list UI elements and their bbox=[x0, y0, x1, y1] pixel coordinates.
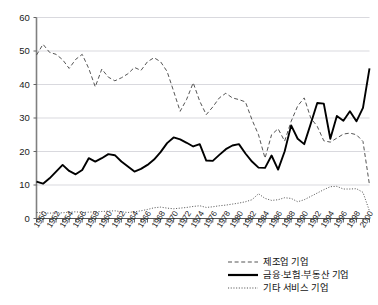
y-tick-label: 30 bbox=[10, 113, 30, 123]
legend-item-1: 제조업 기업 bbox=[228, 256, 376, 268]
legend-line-icon bbox=[228, 270, 258, 280]
series-line-2 bbox=[37, 68, 370, 183]
chart-legend: 제조업 기업금융·보험·부동산 기업기타 서비스 기업 bbox=[228, 256, 376, 295]
y-tick-label: 60 bbox=[10, 13, 30, 23]
chart-container: 0102030405060 19501952195419561958196019… bbox=[0, 0, 378, 305]
y-tick-label: 20 bbox=[10, 147, 30, 157]
legend-item-label: 금융·보험·부동산 기업 bbox=[263, 270, 349, 280]
y-tick-label: 40 bbox=[10, 80, 30, 90]
gridlines bbox=[37, 18, 370, 186]
legend-line-icon bbox=[228, 283, 258, 293]
legend-item-3: 기타 서비스 기업 bbox=[228, 282, 376, 294]
y-tick-label: 10 bbox=[10, 180, 30, 190]
data-series-layer bbox=[37, 44, 370, 213]
series-line-3 bbox=[37, 186, 370, 213]
y-tick-label: 0 bbox=[10, 214, 30, 224]
legend-line-icon bbox=[228, 257, 258, 267]
y-tick-label: 50 bbox=[10, 46, 30, 56]
legend-item-label: 제조업 기업 bbox=[263, 257, 309, 267]
legend-item-label: 기타 서비스 기업 bbox=[263, 283, 328, 293]
legend-item-2: 금융·보험·부동산 기업 bbox=[228, 269, 376, 281]
